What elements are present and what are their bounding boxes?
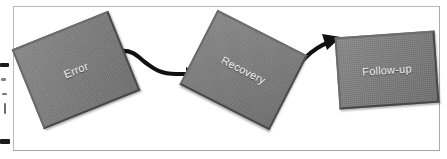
node-recovery-label: Recovery bbox=[219, 54, 267, 87]
diagram-canvas: Error Recovery Follow-up bbox=[0, 0, 447, 159]
node-followup[interactable]: Follow-up bbox=[335, 31, 440, 110]
edge-mark-4 bbox=[4, 103, 6, 114]
node-followup-label: Follow-up bbox=[362, 62, 412, 77]
edge-mark-5 bbox=[0, 139, 10, 144]
edge-mark-2 bbox=[1, 78, 6, 81]
node-error-label: Error bbox=[62, 60, 90, 81]
edge-mark-1 bbox=[0, 63, 9, 67]
edge-mark-3 bbox=[2, 93, 7, 95]
